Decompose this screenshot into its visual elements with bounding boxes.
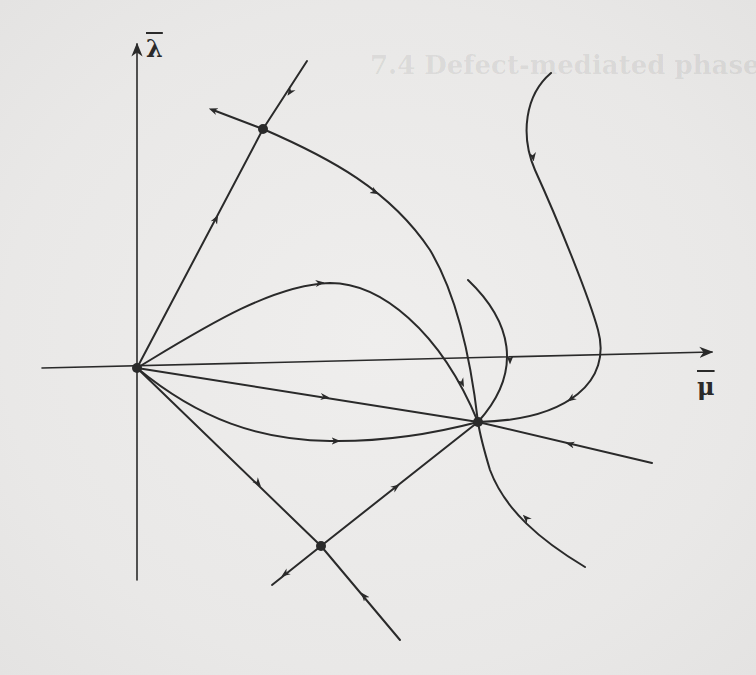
inner-trajectory: [468, 280, 507, 422]
origin-lower-trajectory: [137, 368, 478, 441]
lower-saddle-outgoing-left: [272, 546, 321, 585]
page: 7.4 Defect-mediated phase transitions an…: [0, 0, 756, 675]
top-right-trajectory: [478, 73, 601, 422]
fixed-point-lower-saddle: [316, 541, 326, 551]
upper-saddle-outgoing-right: [263, 129, 478, 422]
origin-to-lower-saddle: [137, 368, 321, 546]
upper-saddle-incoming-top: [263, 61, 307, 129]
right-incoming-trajectory: [478, 422, 652, 463]
fixed-point-stable-node: [473, 417, 483, 427]
lower-saddle-incoming-bottom: [321, 546, 400, 640]
phase-portrait-diagram: [0, 0, 756, 675]
fixed-point-origin: [132, 363, 142, 373]
mu-axis-label: μ: [697, 372, 715, 401]
origin-arc-trajectory: [137, 283, 478, 422]
origin-to-node-straight: [137, 368, 478, 422]
upper-saddle-outgoing-left: [213, 110, 263, 129]
origin-to-upper-saddle: [137, 129, 263, 368]
lambda-axis-label: λ: [146, 34, 163, 63]
fixed-point-upper-saddle: [258, 124, 268, 134]
